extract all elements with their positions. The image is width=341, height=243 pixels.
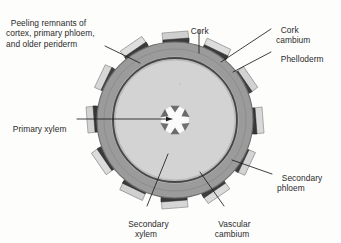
label-primary-xylem-text: Primary xylem: [13, 124, 67, 134]
label-primary-xylem: Primary xylem: [8, 114, 66, 134]
label-secondary-phloem-text: Secondary phloem: [277, 173, 322, 193]
label-peeling-remnants-text: Peeling remnants of cortex, primary phlo…: [6, 18, 95, 48]
label-phelloderm-text: Phelloderm: [281, 54, 324, 64]
xylem-texture-speck: [179, 83, 181, 85]
label-secondary-xylem: Secondary xylem: [104, 209, 188, 240]
label-cork-cambium: Cork cambium: [276, 15, 310, 46]
label-cork-text: Cork: [191, 26, 209, 36]
label-vascular-cambium: Vascular cambium: [195, 209, 269, 240]
label-vascular-cambium-text: Vascular cambium: [215, 219, 251, 239]
label-cork-cambium-text: Cork cambium: [276, 25, 310, 45]
leader-phelloderm: [233, 52, 271, 72]
label-phelloderm: Phelloderm: [276, 44, 324, 64]
label-secondary-phloem: Secondary phloem: [277, 163, 322, 194]
label-peeling-remnants: Peeling remnants of cortex, primary phlo…: [6, 8, 95, 49]
leader-cork-cambium: [221, 29, 271, 62]
label-cork: Cork: [186, 16, 209, 36]
label-secondary-xylem-text: Secondary xylem: [128, 219, 169, 239]
